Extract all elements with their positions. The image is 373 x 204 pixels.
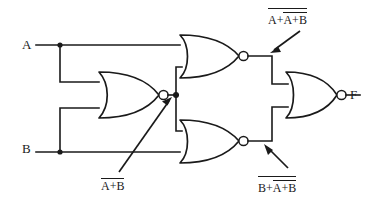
gate-nor4-body (286, 72, 337, 118)
wire-nor2-out (248, 56, 288, 84)
wire-nor3-out (248, 107, 288, 141)
circuit-diagram: A B F A+B A+A+B B+A+B (0, 0, 373, 204)
nor3-inner-overbar: A+B (273, 180, 296, 194)
signal-label-nor1-out: A+B (101, 178, 124, 192)
circuit-svg (0, 0, 373, 204)
output-label-f: F (350, 88, 357, 101)
junction-input-a (57, 42, 62, 47)
input-label-b: B (22, 142, 31, 155)
wire-a-to-nor1 (60, 45, 99, 82)
wire-nor1-to-nor3 (176, 95, 182, 131)
nor2-plus: + (277, 13, 284, 27)
gate-nor2-body (180, 35, 239, 78)
wire-b-to-nor1 (60, 108, 99, 152)
signal-label-nor3-out: B+A+B (258, 176, 296, 194)
gate-nor2-bubble (239, 51, 248, 60)
annotation-arrow-nor1 (119, 97, 172, 172)
nor3-outer-overbar: B+A+B (258, 176, 296, 194)
nor2-outer-overbar: A+A+B (268, 8, 307, 26)
nor2-inner-overbar: A+B (283, 12, 306, 26)
gate-nor3-bubble (239, 136, 248, 145)
gate-nor1-body (99, 72, 159, 118)
signal-label-nor2-out: A+A+B (268, 8, 307, 26)
gate-nor3-body (180, 120, 239, 163)
nor2-term1: A (268, 13, 277, 27)
junction-input-b (57, 149, 62, 154)
nor3-plus: + (266, 181, 273, 195)
annotation-arrow-nor3 (264, 144, 288, 168)
nor3-term1: B (258, 181, 266, 195)
nor1-overbar: A+B (101, 178, 124, 192)
input-label-a: A (22, 38, 31, 51)
gate-nor1-bubble (159, 90, 168, 99)
annotation-arrow-nor2 (270, 31, 300, 53)
gate-nor4-bubble (337, 90, 346, 99)
wire-nor1-to-nor2 (176, 67, 182, 95)
